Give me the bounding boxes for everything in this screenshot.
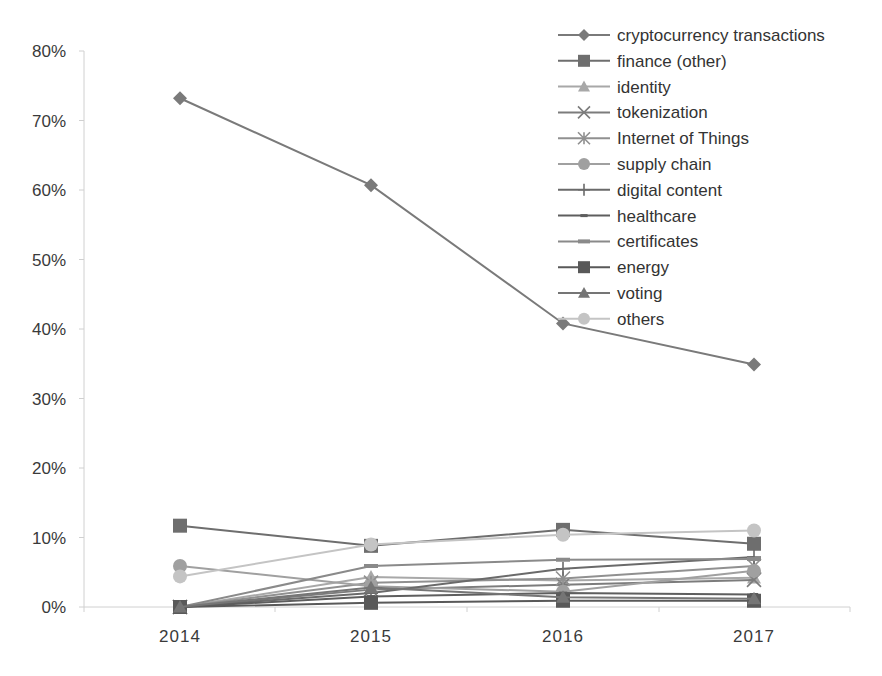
legend-marker-icon — [578, 239, 590, 243]
legend-item: energy — [558, 258, 669, 277]
legend-marker-icon — [578, 313, 590, 325]
data-point — [747, 564, 761, 578]
data-point — [747, 557, 761, 561]
legend-item: Internet of Things — [558, 129, 749, 148]
legend-item: digital content — [558, 181, 722, 200]
data-point — [747, 357, 761, 371]
data-point — [364, 537, 378, 551]
x-tick-label: 2016 — [542, 627, 584, 646]
data-point — [173, 569, 187, 583]
data-point — [747, 524, 761, 538]
x-tick-label: 2014 — [159, 627, 201, 646]
legend-marker-icon — [578, 261, 590, 273]
data-point — [173, 91, 187, 105]
y-tick-label: 30% — [32, 390, 66, 409]
legend-marker-icon — [578, 29, 590, 41]
legend-marker-icon — [578, 55, 590, 67]
y-tick-label: 60% — [32, 181, 66, 200]
legend-marker-icon — [578, 184, 590, 196]
legend-label: cryptocurrency transactions — [617, 26, 825, 45]
y-tick-label: 20% — [32, 459, 66, 478]
y-tick-label: 70% — [32, 112, 66, 131]
y-tick-label: 0% — [41, 598, 66, 617]
y-tick-label: 10% — [32, 529, 66, 548]
legend-item: cryptocurrency transactions — [558, 26, 825, 45]
legend-label: energy — [617, 258, 669, 277]
legend-item: finance (other) — [558, 52, 727, 71]
y-tick-label: 80% — [32, 42, 66, 61]
line-chart: 0%10%20%30%40%50%60%70%80%20142015201620… — [0, 0, 882, 676]
legend-label: certificates — [617, 232, 698, 251]
series-finance-other — [173, 519, 761, 553]
legend-label: tokenization — [617, 103, 708, 122]
legend-item: identity — [558, 78, 671, 97]
legend-marker-icon — [578, 158, 590, 170]
data-point — [173, 519, 187, 533]
legend-label: identity — [617, 78, 671, 97]
legend-label: finance (other) — [617, 52, 727, 71]
x-tick-label: 2017 — [733, 627, 775, 646]
legend-label: Internet of Things — [617, 129, 749, 148]
data-point — [364, 596, 378, 610]
data-point — [747, 537, 761, 551]
data-point — [556, 528, 570, 542]
legend-item: supply chain — [558, 155, 712, 174]
legend: cryptocurrency transactionsfinance (othe… — [558, 26, 825, 329]
data-point — [364, 178, 378, 192]
legend-item: healthcare — [558, 207, 696, 226]
legend-marker-icon — [580, 214, 587, 217]
legend-label: others — [617, 310, 664, 329]
legend-item: certificates — [558, 232, 698, 251]
legend-label: healthcare — [617, 207, 696, 226]
data-point — [556, 558, 570, 562]
legend-label: supply chain — [617, 155, 712, 174]
y-tick-label: 50% — [32, 251, 66, 270]
legend-label: digital content — [617, 181, 722, 200]
x-tick-label: 2015 — [350, 627, 392, 646]
y-tick-label: 40% — [32, 320, 66, 339]
legend-label: voting — [617, 284, 662, 303]
legend-item: tokenization — [558, 103, 708, 122]
legend-item: voting — [558, 284, 662, 303]
data-point — [364, 564, 378, 568]
